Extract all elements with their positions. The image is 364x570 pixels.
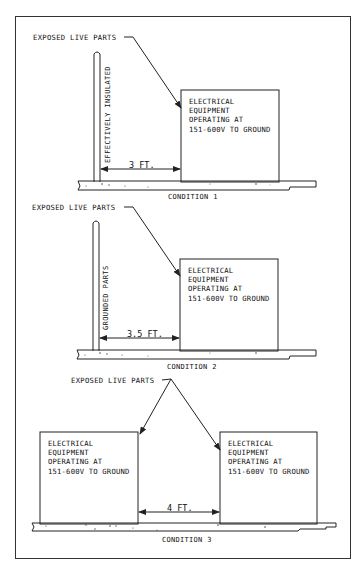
equipment-label-left: ELECTRICAL EQUIPMENT OPERATING AT 151-60… xyxy=(48,439,130,476)
wall-label: EFFECTIVELY INSULATED xyxy=(105,66,112,163)
equipment-label-right: ELECTRICAL EQUIPMENT OPERATING AT 151-60… xyxy=(228,439,310,476)
equipment-label: ELECTRICAL EQUIPMENT OPERATING AT 151-60… xyxy=(188,266,270,303)
distance-label: 3 FT. xyxy=(129,161,155,170)
distance-label: 4 FT. xyxy=(167,504,193,513)
equipment-label: ELECTRICAL EQUIPMENT OPERATING AT 151-60… xyxy=(189,97,271,134)
callout-leader xyxy=(124,37,181,108)
insulated-wall xyxy=(94,52,100,182)
callout-label: EXPOSED LIVE PARTS xyxy=(71,377,154,384)
callout-label: EXPOSED LIVE PARTS xyxy=(33,34,116,41)
callout-leader-right xyxy=(171,379,220,450)
condition-caption: CONDITION 3 xyxy=(162,537,212,544)
condition-caption: CONDITION 2 xyxy=(167,364,217,371)
condition-caption: CONDITION 1 xyxy=(168,194,218,201)
grounded-wall xyxy=(93,221,99,351)
distance-label: 3.5 FT. xyxy=(127,330,163,339)
callout-leader xyxy=(124,207,180,276)
clearance-diagram xyxy=(0,0,364,570)
callout-label: EXPOSED LIVE PARTS xyxy=(32,204,115,211)
callout-leader xyxy=(140,379,171,434)
wall-label: GROUNDED PARTS xyxy=(103,265,110,330)
